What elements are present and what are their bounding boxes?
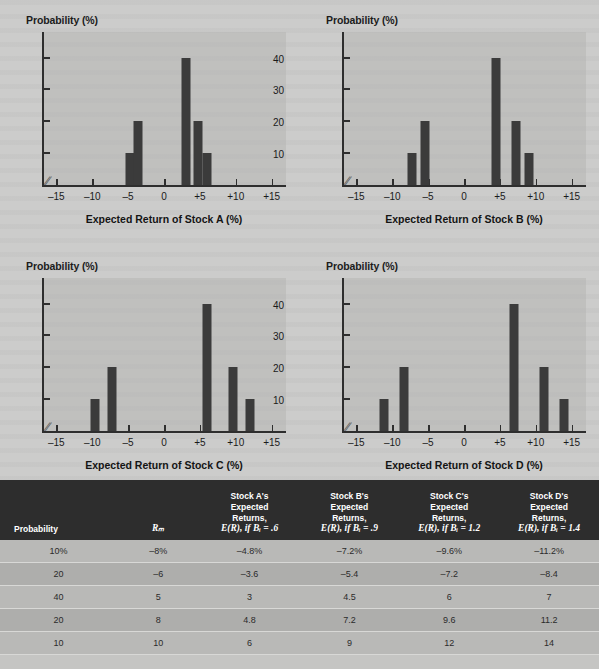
x-axis-tick-label: –15 [48, 437, 65, 448]
x-axis-tick [56, 179, 58, 185]
bar [540, 367, 549, 431]
returns-table: ProbabilityRₘStock A'sExpectedReturns,E(… [0, 480, 599, 669]
x-axis-tick [572, 179, 574, 185]
chart-panel-b: Probability (%)10203040–15–10–50+5+10+15… [300, 0, 599, 240]
x-axis-line [342, 185, 586, 187]
table-cell: –6 [117, 563, 200, 586]
table-header-line: Expected [401, 502, 497, 513]
y-axis-title: Probability (%) [326, 260, 398, 272]
table-cell: 20 [0, 563, 117, 586]
x-axis-tick [356, 425, 358, 431]
bar [134, 121, 143, 185]
bar [492, 58, 501, 186]
y-axis-tick [344, 57, 350, 59]
x-axis-tick-label: –5 [423, 437, 434, 448]
x-axis-tick-label: 0 [161, 437, 167, 448]
table-cell: 10 [0, 632, 117, 655]
y-axis-tick [44, 120, 50, 122]
table-cell: 40 [0, 586, 117, 609]
returns-table-container: ProbabilityRₘStock A'sExpectedReturns,E(… [0, 480, 599, 647]
x-axis-tick [272, 425, 274, 431]
table-row: 20–6–3.6–5.4–7.2–8.4 [0, 563, 599, 586]
bar [181, 58, 190, 186]
x-axis-title: Expected Return of Stock A (%) [42, 213, 286, 225]
y-axis-tick [44, 152, 50, 154]
table-cell: 4.5 [299, 586, 399, 609]
x-axis-line [342, 431, 586, 433]
x-axis-tick [356, 179, 358, 185]
y-axis-tick [44, 88, 50, 90]
x-axis-tick-label: –10 [384, 191, 401, 202]
plot-area: 10203040–15–10–50+5+10+15// [42, 32, 286, 187]
table-footer-cell [0, 655, 599, 669]
table-header-line: Stock D's [501, 491, 597, 502]
y-axis-tick-label: 30 [262, 331, 284, 342]
x-axis-tick [572, 425, 574, 431]
y-axis-tick-label: 10 [262, 395, 284, 406]
table-cell: 4.8 [200, 609, 300, 632]
x-axis-tick-label: +5 [494, 191, 505, 202]
table-cell: –8% [117, 540, 200, 563]
table-cell: 11.2 [499, 609, 599, 632]
table-cell: –9.6% [399, 540, 499, 563]
y-axis-tick [344, 366, 350, 368]
x-axis-tick [236, 179, 238, 185]
table-cell: –11.2% [499, 540, 599, 563]
table-header-stock-a: Stock A'sExpectedReturns,E(R), if Bᵢ = .… [200, 480, 300, 540]
chart-grid: Probability (%)10203040–15–10–50+5+10+15… [0, 0, 599, 480]
y-axis-tick [344, 120, 350, 122]
x-axis-tick-label: –5 [423, 191, 434, 202]
table-header-line: Expected [501, 502, 597, 513]
table-header-stock-c: Stock C'sExpectedReturns,E(R), if Bᵢ = 1… [399, 480, 499, 540]
table-cell: 8 [117, 609, 200, 632]
table-cell: 6 [399, 586, 499, 609]
table-header-line: Returns, [301, 513, 397, 524]
table-cell: –3.6 [200, 563, 300, 586]
x-axis-tick-label: 0 [161, 191, 167, 202]
table-row: 2084.87.29.611.2 [0, 609, 599, 632]
table-row: 40534.567 [0, 586, 599, 609]
table-header-line: Returns, [501, 513, 597, 524]
y-axis-title: Probability (%) [26, 260, 98, 272]
table-header-line: Returns, [401, 513, 497, 524]
bar [511, 121, 520, 185]
table-header-stock-d: Stock D'sExpectedReturns,E(R), if Bᵢ = 1… [499, 480, 599, 540]
table-cell: –4.8% [200, 540, 300, 563]
table-cell: 9 [299, 632, 399, 655]
x-axis-tick [200, 425, 202, 431]
table-row: 1010691214 [0, 632, 599, 655]
bar [379, 399, 388, 431]
y-axis-tick-label: 20 [262, 117, 284, 128]
x-axis-tick [428, 425, 430, 431]
table-header-beta-line: E(R), if Bᵢ = 1.2 [401, 523, 497, 535]
x-axis-tick-label: +10 [227, 437, 244, 448]
x-axis-tick [536, 179, 538, 185]
x-axis-tick [464, 179, 466, 185]
table-footer-spacer [0, 655, 599, 669]
table-header-beta-line: E(R), if Bᵢ = .9 [301, 523, 397, 535]
y-axis-tick-label: 40 [262, 54, 284, 65]
table-row: 10%–8%–4.8%–7.2%–9.6%–11.2% [0, 540, 599, 563]
bar [510, 304, 519, 432]
table-body: 10%–8%–4.8%–7.2%–9.6%–11.2%20–6–3.6–5.4–… [0, 540, 599, 669]
x-axis-tick-label: +15 [563, 437, 580, 448]
x-axis-line [42, 431, 286, 433]
x-axis-tick [500, 425, 502, 431]
y-axis-tick-label: 20 [262, 363, 284, 374]
table-cell: 10% [0, 540, 117, 563]
x-axis-tick-label: –15 [348, 437, 365, 448]
table-header-line: Expected [202, 502, 298, 513]
x-axis-tick-label: +5 [194, 437, 205, 448]
x-axis-tick-label: 0 [461, 437, 467, 448]
x-axis-tick-label: –10 [84, 191, 101, 202]
x-axis-tick-label: +10 [527, 191, 544, 202]
x-axis-tick-label: +5 [194, 191, 205, 202]
x-axis-tick-label: –15 [48, 191, 65, 202]
bar [203, 153, 212, 185]
table-cell: 7.2 [299, 609, 399, 632]
y-axis-tick [344, 303, 350, 305]
table-cell: 20 [0, 609, 117, 632]
table-header-line: Stock C's [401, 491, 497, 502]
y-axis-tick [44, 57, 50, 59]
